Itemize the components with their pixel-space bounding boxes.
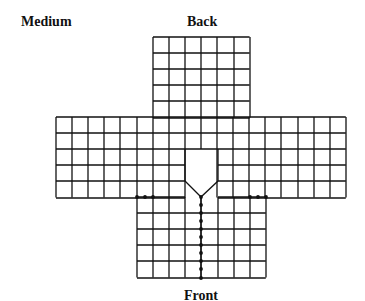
garment-grid-diagram	[0, 0, 365, 301]
grid-lines	[56, 37, 346, 278]
neck-notch	[185, 149, 218, 197]
